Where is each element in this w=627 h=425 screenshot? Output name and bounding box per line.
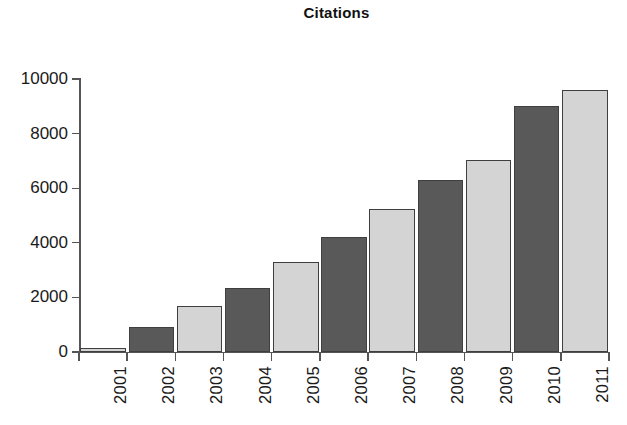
x-axis-label-2009: 2009 xyxy=(497,366,516,404)
x-axis-tick xyxy=(608,352,609,361)
bar-2007 xyxy=(369,209,415,352)
x-axis-tick xyxy=(367,352,368,361)
x-axis-tick xyxy=(175,352,176,361)
bar-2006 xyxy=(321,237,367,352)
chart-title: Citations xyxy=(0,4,627,21)
x-axis-label-2004: 2004 xyxy=(256,366,275,404)
x-axis-tick xyxy=(126,352,127,361)
x-axis-label-2006: 2006 xyxy=(352,366,371,404)
x-axis-label-2008: 2008 xyxy=(448,366,467,404)
bar-2002 xyxy=(129,327,175,352)
y-axis-label: 6000 xyxy=(0,178,68,198)
x-axis-tick xyxy=(512,352,513,361)
x-axis-tick xyxy=(271,352,272,361)
bar-2004 xyxy=(225,288,271,352)
x-axis-label-2005: 2005 xyxy=(304,366,323,404)
x-axis-label-2002: 2002 xyxy=(159,366,178,404)
bar-2001 xyxy=(80,348,126,352)
x-axis-label-2003: 2003 xyxy=(207,366,226,404)
bars-container xyxy=(79,79,609,352)
x-axis-tick xyxy=(223,352,224,361)
y-axis-label: 10000 xyxy=(0,69,68,89)
bar-2003 xyxy=(177,306,223,352)
x-axis-label-2001: 2001 xyxy=(111,366,130,404)
y-axis-label: 8000 xyxy=(0,124,68,144)
y-axis-label: 0 xyxy=(0,342,68,362)
x-axis-label-2010: 2010 xyxy=(545,366,564,404)
y-axis-label: 4000 xyxy=(0,233,68,253)
bar-2011 xyxy=(562,90,608,352)
y-axis-label: 2000 xyxy=(0,287,68,307)
bar-2005 xyxy=(273,262,319,352)
x-axis-label-2011: 2011 xyxy=(593,366,612,403)
bar-2008 xyxy=(418,180,464,352)
x-axis-tick xyxy=(560,352,561,361)
x-axis-tick xyxy=(319,352,320,361)
x-axis-tick xyxy=(78,352,79,361)
x-axis-tick xyxy=(464,352,465,361)
citations-bar-chart: Citations 0200040006000800010000 2001200… xyxy=(0,0,627,425)
x-axis-tick xyxy=(416,352,417,361)
x-axis-label-2007: 2007 xyxy=(400,366,419,404)
bar-2010 xyxy=(514,106,560,352)
bar-2009 xyxy=(466,160,512,352)
